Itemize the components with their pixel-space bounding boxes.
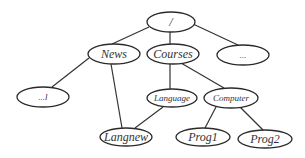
tree-node-courses: Courses [147, 44, 199, 64]
edge-news-to-dots [52, 58, 89, 87]
tree-node-dots: ...l [17, 87, 69, 107]
directory-tree-diagram: /NewsCourses......lLanguageComputerLangn… [0, 0, 305, 158]
node-label: Language [153, 93, 190, 103]
edge-root-to-news [112, 27, 149, 44]
node-label: Langnew [103, 130, 148, 144]
tree-node-prog1: Prog1 [176, 128, 230, 146]
edge-language-to-langnew [135, 107, 163, 128]
node-label: Computer [213, 93, 249, 103]
edge-computer-to-prog2 [240, 107, 263, 130]
edge-computer-to-prog1 [205, 107, 216, 128]
tree-node-computer: Computer [204, 88, 258, 108]
edge-root-to-more [193, 24, 238, 45]
node-label: News [100, 47, 127, 61]
edge-news-to-langnew [111, 64, 122, 128]
node-label: ...l [38, 92, 48, 102]
tree-node-prog2: Prog2 [238, 130, 292, 148]
tree-node-news: News [88, 44, 140, 64]
tree-node-more: ... [217, 45, 269, 65]
edge-courses-to-computer [181, 63, 224, 88]
tree-edges [52, 24, 263, 130]
node-label: Courses [153, 47, 193, 61]
node-label: ... [240, 50, 247, 60]
node-label: Prog1 [187, 130, 218, 144]
tree-nodes: /NewsCourses......lLanguageComputerLangn… [17, 12, 292, 148]
tree-node-root: / [147, 12, 195, 32]
node-label: Prog2 [249, 132, 280, 146]
tree-node-langnew: Langnew [100, 128, 152, 146]
tree-node-language: Language [147, 89, 197, 107]
